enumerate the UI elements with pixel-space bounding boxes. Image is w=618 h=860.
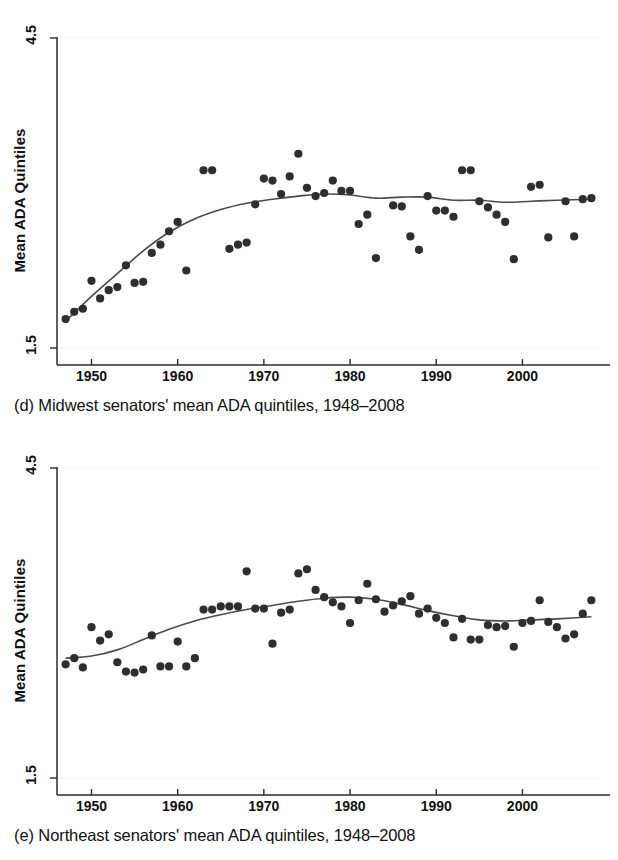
data-point <box>510 255 518 263</box>
data-point <box>139 665 147 673</box>
data-point <box>122 261 130 269</box>
data-point <box>251 200 259 208</box>
data-point <box>424 192 432 200</box>
data-point <box>311 192 319 200</box>
data-point <box>337 187 345 195</box>
data-point <box>492 623 500 631</box>
data-point <box>113 658 121 666</box>
data-point <box>62 660 70 668</box>
data-point <box>484 621 492 629</box>
data-point <box>406 592 414 600</box>
data-point <box>527 183 535 191</box>
data-point <box>113 283 121 291</box>
y-tick-top-northeast: 4.5 <box>14 456 48 474</box>
y-axis-label-text: Mean ADA Quintiles <box>11 128 28 272</box>
data-point <box>518 619 526 627</box>
data-point <box>579 195 587 203</box>
data-point <box>225 245 233 253</box>
data-point <box>105 630 113 638</box>
data-point <box>156 662 164 670</box>
data-point <box>553 623 561 631</box>
y-tick-bottom-northeast: 1.5 <box>14 766 48 784</box>
data-point <box>475 197 483 205</box>
y-tick-top-midwest: 4.5 <box>14 26 48 44</box>
data-point <box>87 623 95 631</box>
y-tick-bottom-midwest: 1.5 <box>14 336 48 354</box>
data-point <box>105 286 113 294</box>
data-point <box>424 604 432 612</box>
data-point <box>182 266 190 274</box>
x-tick-label: 1950 <box>61 368 121 384</box>
data-point <box>286 172 294 180</box>
data-point <box>96 294 104 302</box>
data-point <box>501 622 509 630</box>
data-point <box>303 565 311 573</box>
data-point <box>148 631 156 639</box>
data-point <box>225 602 233 610</box>
data-point <box>337 602 345 610</box>
data-point <box>510 643 518 651</box>
data-point <box>320 189 328 197</box>
data-point <box>243 239 251 247</box>
data-point <box>311 586 319 594</box>
data-point <box>260 174 268 182</box>
data-point <box>398 202 406 210</box>
data-point <box>458 166 466 174</box>
x-tick-label: 1980 <box>320 798 380 814</box>
x-tick-label: 1980 <box>320 368 380 384</box>
data-point <box>449 633 457 641</box>
data-point <box>458 615 466 623</box>
data-point <box>294 150 302 158</box>
data-point <box>174 638 182 646</box>
x-tick-label: 2000 <box>492 368 552 384</box>
data-point <box>406 232 414 240</box>
data-point <box>561 197 569 205</box>
data-point <box>277 609 285 617</box>
data-point <box>492 211 500 219</box>
data-point <box>355 596 363 604</box>
data-point <box>96 636 104 644</box>
data-point <box>260 604 268 612</box>
data-point <box>130 669 138 677</box>
scatter-plot-midwest <box>0 0 618 390</box>
x-tick-label: 1970 <box>234 368 294 384</box>
data-point <box>570 630 578 638</box>
data-point <box>441 619 449 627</box>
data-point <box>527 617 535 625</box>
data-point <box>156 241 164 249</box>
y-axis-label-midwest: Mean ADA Quintiles <box>6 90 32 310</box>
plot-area-midwest <box>0 0 618 390</box>
data-point <box>372 595 380 603</box>
data-point <box>294 569 302 577</box>
data-point <box>320 593 328 601</box>
data-point <box>122 667 130 675</box>
data-point <box>79 663 87 671</box>
data-point <box>501 218 509 226</box>
x-tick-label: 1960 <box>148 798 208 814</box>
data-point <box>389 201 397 209</box>
caption-northeast: (e) Northeast senators' mean ADA quintil… <box>14 826 415 845</box>
data-point <box>441 206 449 214</box>
x-tick-label: 1960 <box>148 368 208 384</box>
data-point <box>165 662 173 670</box>
data-point <box>217 602 225 610</box>
data-point <box>243 567 251 575</box>
figure-page: Mean ADA Quintiles 4.5 1.5 1950196019701… <box>0 0 618 860</box>
data-point <box>544 618 552 626</box>
data-point <box>467 635 475 643</box>
y-axis-label-text: Mean ADA Quintiles <box>11 558 28 702</box>
data-point <box>208 166 216 174</box>
data-point <box>208 605 216 613</box>
data-point <box>363 580 371 588</box>
data-point <box>174 218 182 226</box>
data-point <box>139 278 147 286</box>
x-tick-label: 1990 <box>406 798 466 814</box>
scatter-plot-northeast <box>0 430 618 820</box>
data-point <box>79 305 87 313</box>
data-point <box>234 602 242 610</box>
data-point <box>561 634 569 642</box>
data-point <box>62 315 70 323</box>
data-point <box>199 605 207 613</box>
data-point <box>544 233 552 241</box>
data-point <box>587 596 595 604</box>
